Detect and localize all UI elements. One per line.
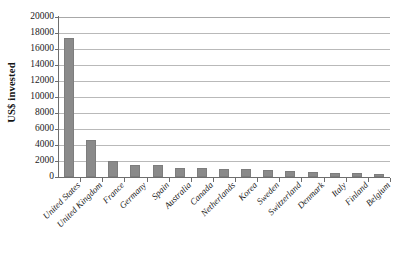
x-axis-category-label: Italy — [329, 180, 348, 199]
y-axis-tick-labels: 2000018000160001400012000100008000600040… — [18, 11, 56, 183]
bar — [308, 172, 318, 177]
bar — [153, 165, 163, 177]
y-axis-tick-label: 10000 — [30, 92, 54, 102]
y-axis-tick-label: 20000 — [30, 12, 54, 22]
bar — [263, 170, 273, 177]
y-axis-tick-label: 18000 — [30, 28, 54, 38]
y-axis-tick-label: 8000 — [35, 108, 54, 118]
bar — [86, 140, 96, 177]
bar — [330, 173, 340, 177]
bar — [108, 161, 118, 177]
bar — [219, 169, 229, 177]
bar — [130, 165, 140, 177]
x-axis-category-labels: United StatesUnited KingdomFranceGermany… — [58, 180, 401, 259]
bar — [197, 168, 207, 177]
bars-layer — [58, 17, 390, 177]
y-axis-tick-label: 6000 — [35, 124, 54, 134]
bar — [352, 173, 362, 177]
y-axis-tick-label: 4000 — [35, 140, 54, 150]
y-axis-tick-label: 14000 — [30, 60, 54, 70]
y-axis-tick-label: 12000 — [30, 76, 54, 86]
bar — [64, 38, 74, 177]
bar — [241, 169, 251, 177]
bar — [374, 174, 384, 177]
bar — [285, 171, 295, 177]
y-axis-tick-label: 16000 — [30, 44, 54, 54]
bar — [175, 168, 185, 177]
bar-chart: US$ invested 200001800016000140001200010… — [0, 0, 401, 259]
y-axis-title-text: US$ invested — [6, 62, 17, 122]
y-axis-tick-label: 2000 — [35, 156, 54, 166]
